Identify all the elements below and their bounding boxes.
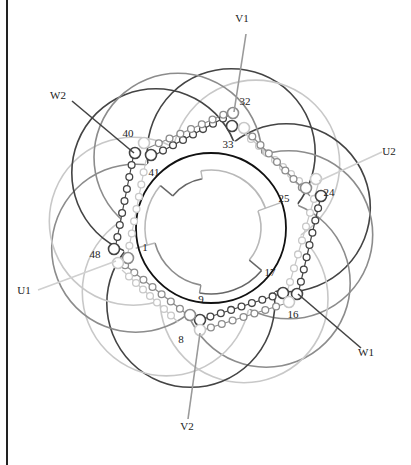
conductor-node xyxy=(300,266,307,273)
terminal-node xyxy=(130,148,141,159)
conductor-node xyxy=(131,218,138,225)
conductor-node xyxy=(177,305,184,312)
conductor-node xyxy=(116,222,123,229)
conductor-node xyxy=(136,193,143,200)
conductor-node xyxy=(207,313,214,320)
conductor-node xyxy=(155,140,162,147)
conductor-node xyxy=(290,176,297,183)
conductor-node xyxy=(303,254,310,261)
conductor-node xyxy=(306,242,313,249)
slot-label: 25 xyxy=(279,192,291,204)
conductor-node xyxy=(149,284,156,291)
conductor-node xyxy=(262,307,269,314)
conductor-node xyxy=(291,265,298,272)
conductor-node xyxy=(121,198,128,205)
conductor-node xyxy=(259,296,266,303)
conductor-node xyxy=(140,286,147,293)
conductor-node xyxy=(128,230,135,237)
slot-label: 41 xyxy=(149,166,160,178)
conductor-node xyxy=(282,167,289,174)
slot-label: 48 xyxy=(90,248,102,260)
conductor-node xyxy=(240,314,247,321)
slot-label: 16 xyxy=(288,308,300,320)
conductor-node xyxy=(295,251,302,258)
conductor-node xyxy=(257,142,264,149)
conductor-node xyxy=(209,116,216,123)
conductor-node xyxy=(188,126,195,133)
terminal-label-u1: U1 xyxy=(17,284,30,296)
conductor-node xyxy=(140,169,147,176)
conductor-node xyxy=(315,205,322,212)
conductor-node xyxy=(167,298,174,305)
conductor-node xyxy=(249,300,256,307)
conductor-node xyxy=(303,223,310,230)
slot-label: 1 xyxy=(142,241,148,253)
conductor-node xyxy=(168,312,175,319)
conductor-node xyxy=(198,121,205,128)
conductor-node xyxy=(220,111,227,118)
conductor-node xyxy=(133,206,140,213)
terminal-node xyxy=(301,183,312,194)
conductor-node xyxy=(312,217,319,224)
slot-label: 33 xyxy=(223,138,235,150)
conductor-node xyxy=(307,209,314,216)
terminal-label-v1: V1 xyxy=(235,12,248,24)
conductor-node xyxy=(265,150,272,157)
conductor-node xyxy=(138,181,145,188)
conductor-node xyxy=(147,293,154,300)
conductor-node xyxy=(158,291,165,298)
terminal-label-u2: U2 xyxy=(382,145,395,157)
conductor-node xyxy=(298,278,305,285)
conductor-node xyxy=(177,130,184,137)
terminal-node xyxy=(239,123,250,134)
conductor-node xyxy=(126,242,133,249)
conductor-node xyxy=(128,162,135,169)
lead-w1 xyxy=(298,294,361,348)
terminal-node xyxy=(311,174,322,185)
terminal-node xyxy=(228,108,239,119)
conductor-node xyxy=(249,133,256,140)
lead-u2 xyxy=(319,152,382,181)
slot-label: 32 xyxy=(240,95,251,107)
conductor-node xyxy=(309,229,316,236)
terminal-label-w1: W1 xyxy=(358,346,374,358)
conductor-node xyxy=(287,279,294,286)
slot-label: 8 xyxy=(178,333,184,345)
conductor-node xyxy=(124,186,131,193)
slot-label: 24 xyxy=(324,186,336,198)
conductor-node xyxy=(274,159,281,166)
conductor-node xyxy=(160,147,167,154)
terminal-label-w2: W2 xyxy=(50,89,66,101)
conductor-node xyxy=(170,142,177,149)
conductor-node xyxy=(269,293,276,300)
conductor-node xyxy=(126,174,133,181)
terminal-node xyxy=(284,297,295,308)
terminal-node xyxy=(227,121,238,132)
conductor-node xyxy=(217,310,224,317)
conductor-node xyxy=(161,306,168,313)
conductor-node xyxy=(114,234,121,241)
slot-label: 40 xyxy=(123,127,135,139)
lead-v2 xyxy=(188,333,200,419)
slot-label: 17 xyxy=(265,266,277,278)
conductor-node xyxy=(238,303,245,310)
conductor-node xyxy=(208,324,215,331)
terminal-node xyxy=(146,150,157,161)
winding-diagram: 323340412425481171698 V1U2W2U1V2W1 xyxy=(0,0,411,465)
conductor-node xyxy=(251,310,258,317)
lead-u1 xyxy=(38,261,116,290)
conductor-node xyxy=(228,307,235,314)
terminal-node xyxy=(185,310,196,321)
conductor-node xyxy=(299,237,306,244)
conductor-node xyxy=(218,321,225,328)
conductor-node xyxy=(133,280,140,287)
terminal-node xyxy=(109,244,120,255)
conductor-node xyxy=(229,317,236,324)
core-mask xyxy=(121,138,301,318)
terminal-label-v2: V2 xyxy=(180,420,193,432)
conductor-node xyxy=(154,299,161,306)
terminal-node xyxy=(113,258,124,269)
conductor-node xyxy=(126,273,133,280)
slot-label: 9 xyxy=(198,293,204,305)
terminal-node xyxy=(139,138,150,149)
